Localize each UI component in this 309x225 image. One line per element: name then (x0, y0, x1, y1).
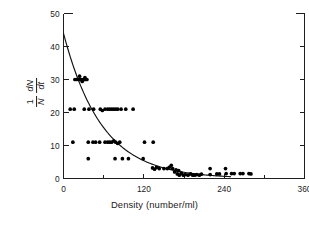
data-point (118, 140, 122, 144)
data-point (72, 107, 76, 111)
data-point (94, 140, 98, 144)
data-point (78, 74, 82, 78)
data-point (87, 107, 91, 111)
y-label-numerator-dn: dN (27, 77, 36, 93)
data-point (71, 140, 75, 144)
data-point (218, 172, 222, 176)
data-point (92, 107, 96, 111)
data-points (68, 74, 252, 177)
fit-curve (64, 33, 231, 176)
y-tick-label: 50 (50, 9, 60, 19)
data-point (127, 157, 131, 161)
data-point (116, 107, 120, 111)
data-point (119, 107, 123, 111)
data-point (86, 157, 90, 161)
data-point (143, 140, 147, 144)
data-point (131, 107, 135, 111)
data-point (113, 157, 117, 161)
y-axis-label-second-fraction: dN dt (27, 77, 48, 93)
axis-tick-labels: 010203040500120240360 (50, 9, 309, 194)
data-point (86, 140, 90, 144)
x-tick-label: 120 (137, 184, 151, 194)
data-point (171, 167, 175, 171)
x-tick-label: 0 (61, 184, 66, 194)
y-tick-label: 10 (50, 141, 60, 151)
data-point (232, 172, 236, 176)
data-point (200, 172, 204, 176)
data-point (80, 80, 84, 84)
data-point (124, 107, 128, 111)
data-point (83, 76, 87, 80)
data-point (121, 157, 125, 161)
data-point (169, 163, 173, 167)
y-label-denominator-dt: dt (38, 79, 47, 91)
data-point (249, 172, 253, 176)
x-axis-label: Density (number/ml) (0, 199, 309, 210)
data-point (157, 167, 161, 171)
y-tick-label: 40 (50, 42, 60, 52)
data-point (68, 107, 72, 111)
axis-ticks (64, 14, 305, 179)
data-point (162, 167, 166, 171)
plot-axes (64, 14, 305, 179)
y-label-denominator-n: N (38, 96, 47, 107)
data-point (82, 107, 86, 111)
x-tick-label: 360 (298, 184, 309, 194)
y-axis-label: 1 N dN dt (14, 62, 60, 122)
data-point (224, 167, 228, 171)
chart-figure: 010203040500120240360 1 N dN dt Density … (0, 0, 309, 225)
data-point (177, 169, 181, 173)
x-tick-label: 240 (217, 184, 231, 194)
data-point (141, 157, 145, 161)
y-axis-label-first-fraction: 1 N (27, 96, 48, 107)
y-label-numerator-one: 1 (27, 97, 36, 106)
data-point (151, 140, 155, 144)
data-point (208, 173, 212, 177)
data-point (98, 140, 102, 144)
data-point (208, 167, 212, 171)
data-point (224, 172, 228, 176)
data-point (241, 172, 245, 176)
y-tick-label: 0 (55, 174, 60, 184)
